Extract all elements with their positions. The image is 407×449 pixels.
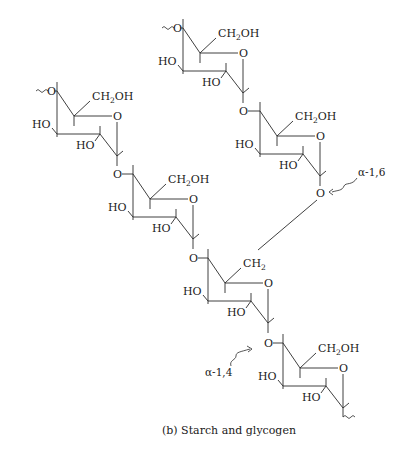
- substituent-label: CH2OH: [318, 342, 359, 357]
- hydroxyl-label: HO: [227, 306, 246, 319]
- hydroxyl-label: HO: [158, 55, 177, 68]
- c2-c1-bond: [326, 386, 343, 408]
- glycosidic-oxygen-label: O: [189, 252, 198, 265]
- c2-oh-bond: [321, 386, 326, 393]
- ring-oxygen-label: O: [316, 130, 325, 143]
- c4-c5-bond: [260, 111, 277, 136]
- alpha-1-4-link: O: [239, 93, 260, 118]
- alpha-1-6-link: O: [258, 176, 325, 250]
- substituent-label: CH2OH: [92, 90, 133, 105]
- glucose-ring-glc-4: OHOHOCH2OH: [108, 165, 209, 239]
- annotation-alpha-1-4: α-1,4: [205, 346, 252, 378]
- glucose-ring-glc-6: OHOHOCH2OH: [258, 334, 359, 408]
- c2-oh-bond: [246, 301, 251, 308]
- c2-oh-bond: [171, 217, 176, 224]
- c3-oh-bond: [255, 148, 260, 154]
- c2-c1-bond: [303, 154, 320, 176]
- c5-c6-bond: [150, 184, 166, 199]
- alpha-1-4-link: O: [113, 156, 133, 181]
- hydroxyl-label: HO: [235, 138, 254, 151]
- c3-oh-bond: [278, 380, 283, 386]
- starch-glycogen-diagram: OHOHOCH2OHOHOHOCH2OHOHOHOCH2OHOHOHOCH2OH…: [0, 0, 407, 449]
- ring-oxygen-label: O: [239, 47, 248, 60]
- c3-oh-bond: [178, 65, 183, 71]
- bridge-oxygen-label: O: [47, 85, 56, 98]
- c1-h-tick: [243, 88, 249, 93]
- glycosidic-oxygen-label: O: [239, 105, 248, 118]
- branch-oxygen-label: O: [316, 187, 325, 200]
- c3-oh-bond: [128, 211, 133, 217]
- c1-h-tick: [193, 234, 199, 239]
- c1-h-tick: [343, 403, 349, 408]
- chain-end: [343, 408, 355, 419]
- glycosidic-oxygen-label: O: [113, 168, 122, 181]
- c4-c5-bond: [133, 174, 150, 199]
- c2-c1-bond: [176, 217, 193, 239]
- substituent-label: CH2OH: [218, 27, 259, 42]
- c3-oh-bond: [52, 128, 57, 134]
- wavy-bond-icon: [343, 416, 355, 419]
- c2-c1-bond: [100, 134, 117, 156]
- c5-c6-bond: [200, 38, 216, 53]
- figure-caption: (b) Starch and glycogen: [162, 424, 296, 437]
- c2-c1-bond: [251, 301, 268, 323]
- hydroxyl-label: HO: [202, 76, 221, 89]
- hydroxyl-label: HO: [76, 139, 95, 152]
- c5-c6-bond: [300, 353, 316, 368]
- c1-h-tick: [117, 151, 123, 156]
- ring-oxygen-label: O: [264, 277, 273, 290]
- annotation-alpha-1-6-label: α-1,6: [358, 166, 386, 178]
- c5-c6-bond: [74, 101, 90, 116]
- alpha-1-4-link: O: [189, 239, 208, 265]
- alpha-1-4-link: O: [264, 323, 283, 350]
- substituent-label: CH2OH: [168, 173, 209, 188]
- squiggle-arrow-icon: [231, 349, 250, 366]
- o-ch2-bond: [258, 200, 317, 250]
- ring-oxygen-label: O: [339, 362, 348, 375]
- bridge-oxygen-label: O: [173, 22, 182, 35]
- substituent-label: CH2: [243, 257, 266, 272]
- c2-oh-bond: [221, 71, 226, 78]
- annotation-alpha-1-4-label: α-1,4: [205, 366, 233, 378]
- substituent-label: CH2OH: [295, 110, 336, 125]
- c1-h-tick: [268, 318, 274, 323]
- hydroxyl-label: HO: [183, 285, 202, 298]
- hydroxyl-label: HO: [258, 370, 277, 383]
- c4-c5-bond: [208, 258, 225, 283]
- hydroxyl-label: HO: [302, 391, 321, 404]
- c4-c5-bond: [57, 91, 74, 116]
- chain-start-main: O: [36, 85, 57, 98]
- c2-c1-bond: [226, 71, 243, 93]
- squiggle-arrow-icon: [332, 178, 357, 192]
- c5-c6-bond: [277, 121, 293, 136]
- glycosidic-oxygen-label: O: [264, 337, 273, 350]
- c4-c5-bond: [183, 28, 200, 53]
- hydroxyl-label: HO: [279, 159, 298, 172]
- ring-oxygen-label: O: [189, 193, 198, 206]
- c5-c6-bond: [225, 268, 241, 283]
- annotation-alpha-1-6: α-1,6: [329, 166, 386, 195]
- c2-oh-bond: [95, 134, 100, 141]
- hydroxyl-label: HO: [152, 222, 171, 235]
- ring-oxygen-label: O: [113, 110, 122, 123]
- hydroxyl-label: HO: [32, 118, 51, 131]
- c3-oh-bond: [203, 295, 208, 301]
- c2-oh-bond: [298, 154, 303, 161]
- c1-h-tick: [320, 171, 326, 176]
- glucose-ring-glc-2: OHOHOCH2OH: [235, 102, 336, 176]
- hydroxyl-label: HO: [108, 201, 127, 214]
- chain-start-branch: O: [162, 22, 183, 35]
- c4-c5-bond: [283, 343, 300, 368]
